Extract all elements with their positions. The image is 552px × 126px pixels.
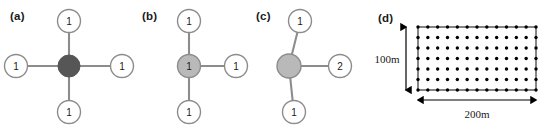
sensor-node-dot [515,36,518,39]
leaf-label-top: 1 [186,16,192,27]
leaf-label-right: 1 [119,61,125,72]
sensor-node-dot [446,67,449,70]
panel-a: (a) 1 1 1 1 [0,0,140,126]
sensor-node-dot [534,67,537,70]
sensor-node-dot [495,78,498,81]
sensor-node-dot [515,46,518,49]
leaf-label-bottom: 1 [66,107,72,118]
sensor-node-dot [416,78,419,81]
sensor-node-dot [485,25,488,28]
hub-node [58,55,80,77]
sensor-node-dot [465,25,468,28]
sensor-node-dot [456,36,459,39]
panel-b: (b) 1 1 1 1 [136,0,256,126]
sensor-node-dot [485,78,488,81]
panel-b-graph: 1 1 1 1 [136,0,256,126]
sensor-node-dot [524,57,527,60]
hub-node [277,54,301,78]
sensor-node-dot [534,25,537,28]
sensor-node-dot [495,88,498,91]
sensor-node-dot [426,25,429,28]
sensor-node-dot [446,25,449,28]
sensor-node-dot [436,57,439,60]
sensor-node-dot [436,88,439,91]
sensor-node-dot [446,57,449,60]
sensor-node-dot [436,78,439,81]
leaf-label-top: 1 [66,16,72,27]
sensor-node-dot [436,36,439,39]
sensor-node-dot [515,67,518,70]
sensor-node-dot [505,88,508,91]
sensor-node-dot [495,25,498,28]
sensor-node-dot [416,88,419,91]
sensor-node-dot [475,25,478,28]
sensor-node-dot [456,25,459,28]
sensor-node-dot [534,78,537,81]
figure-root: (a) 1 1 1 1 (b) 1 [0,0,552,126]
height-dimension-label: 100m [374,53,400,65]
panel-a-graph: 1 1 1 1 [0,0,140,126]
sensor-node-dot [436,25,439,28]
sensor-node-dot [524,36,527,39]
sensor-node-dot [534,88,537,91]
sensor-node-dot [456,78,459,81]
leaf-label-bottom: 1 [291,107,297,118]
leaf-label-top: 1 [297,16,303,27]
sensor-node-dot [515,78,518,81]
sensor-node-dot [465,78,468,81]
sensor-node-dot [524,46,527,49]
sensor-node-dot [505,78,508,81]
sensor-node-dot [524,88,527,91]
sensor-node-dot [515,25,518,28]
sensor-node-dot [426,78,429,81]
sensor-node-dot [505,25,508,28]
sensor-node-dot [416,36,419,39]
sensor-node-dot [475,46,478,49]
sensor-node-dots [416,25,537,91]
sensor-node-dot [446,78,449,81]
sensor-node-dot [465,36,468,39]
sensor-node-dot [416,46,419,49]
sensor-node-dot [416,67,419,70]
sensor-node-dot [426,46,429,49]
sensor-node-dot [465,88,468,91]
sensor-node-dot [524,25,527,28]
sensor-node-dot [465,46,468,49]
leaf-label-right: 1 [233,61,239,72]
sensor-node-dot [505,46,508,49]
sensor-node-dot [475,36,478,39]
sensor-node-dot [475,67,478,70]
leaf-label-bottom: 1 [186,107,192,118]
sensor-node-dot [456,46,459,49]
sensor-node-dot [534,46,537,49]
sensor-node-dot [446,88,449,91]
panel-d: (d) 100m [372,0,552,126]
sensor-node-dot [495,46,498,49]
width-dimension-label: 200m [464,108,490,120]
sensor-node-dot [495,36,498,39]
sensor-node-dot [456,88,459,91]
sensor-node-dot [436,46,439,49]
sensor-node-dot [436,67,439,70]
sensor-node-dot [456,57,459,60]
sensor-node-dot [465,57,468,60]
sensor-node-dot [426,36,429,39]
panel-c: (c) 1 2 1 [253,0,375,126]
sensor-node-dot [446,46,449,49]
sensor-node-dot [475,57,478,60]
sensor-node-dot [475,78,478,81]
sensor-node-dot [524,67,527,70]
sensor-node-dot [515,88,518,91]
panel-c-graph: 1 2 1 [253,0,375,126]
sensor-node-dot [426,88,429,91]
sensor-node-dot [475,88,478,91]
sensor-node-dot [485,67,488,70]
sensor-node-dot [456,67,459,70]
sensor-node-dot [485,36,488,39]
sensor-node-dot [524,78,527,81]
sensor-node-dot [505,57,508,60]
sensor-node-dot [534,36,537,39]
panel-d-deployment-area: 100m 200m [372,0,552,126]
sensor-node-dot [416,57,419,60]
sensor-node-dot [416,25,419,28]
